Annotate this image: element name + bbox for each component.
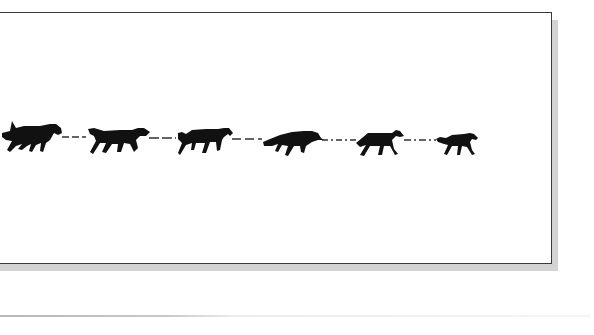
dog-3-silhouette <box>178 128 233 155</box>
dog-5-silhouette <box>356 130 404 156</box>
dog-team-illustration <box>0 0 594 335</box>
illustration-stage <box>0 0 594 335</box>
dog-2-silhouette <box>88 128 150 154</box>
dog-4-silhouette <box>263 131 324 156</box>
dog-6-silhouette <box>436 133 478 155</box>
dog-1-silhouette <box>2 121 62 152</box>
